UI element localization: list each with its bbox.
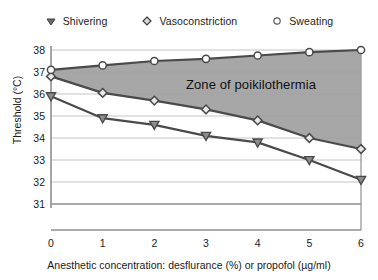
x-axis-tick: 6 — [351, 238, 371, 249]
plot-area: Threshold (°C) Anesthetic concentration:… — [0, 0, 378, 280]
y-axis-tick: 32 — [25, 177, 45, 188]
y-axis-tick: 38 — [25, 45, 45, 56]
x-axis-tick: 5 — [299, 238, 319, 249]
x-axis-tick: 3 — [196, 238, 216, 249]
y-axis-title: Threshold (°C) — [11, 65, 23, 155]
x-axis-tick: 1 — [93, 238, 113, 249]
y-axis-tick: 37 — [25, 67, 45, 78]
x-axis-tick: 4 — [248, 238, 268, 249]
x-axis-tick: 0 — [41, 238, 61, 249]
x-axis-tick: 2 — [144, 238, 164, 249]
y-axis-tick: 33 — [25, 155, 45, 166]
y-axis-tick: 36 — [25, 89, 45, 100]
chart-figure: Shivering Vasoconstriction Sweating Thre… — [0, 0, 378, 280]
y-axis-tick: 35 — [25, 111, 45, 122]
zone-annotation: Zone of poikilothermia — [186, 77, 316, 92]
y-axis-tick: 31 — [25, 199, 45, 210]
y-axis-tick: 34 — [25, 133, 45, 144]
x-axis-title: Anesthetic concentration: desflurance (%… — [0, 259, 378, 271]
